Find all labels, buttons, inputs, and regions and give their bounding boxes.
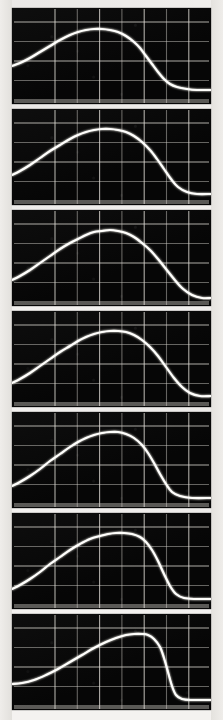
scope-panel-4 (12, 311, 211, 407)
scope-panel-2 (12, 109, 211, 205)
film-edge-left (0, 0, 12, 720)
film-edge-right (211, 0, 223, 720)
trace-strip (0, 0, 223, 720)
graticule-and-trace (12, 614, 211, 710)
waveform-trace (12, 230, 211, 298)
graticule-and-trace (12, 210, 211, 306)
graticule-and-trace (12, 109, 211, 205)
scope-panel-5 (12, 412, 211, 508)
graticule-and-trace (12, 311, 211, 407)
scope-panel-6 (12, 513, 211, 609)
graticule-and-trace (12, 8, 211, 104)
graticule-and-trace (12, 412, 211, 508)
scope-panel-7 (12, 614, 211, 710)
graticule-and-trace (12, 513, 211, 609)
scope-panel-1 (12, 8, 211, 104)
scope-panel-3 (12, 210, 211, 306)
